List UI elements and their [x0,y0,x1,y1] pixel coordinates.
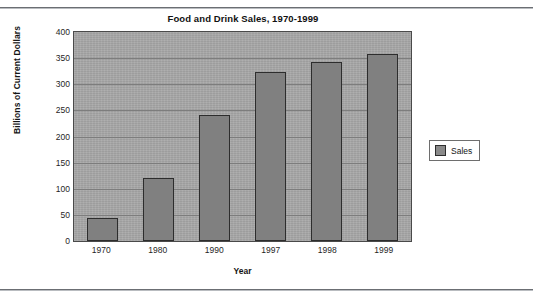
bar-chart: Food and Drink Sales, 1970-1999 Billions… [0,9,533,289]
bar[interactable] [143,178,174,241]
bar-group [74,32,411,241]
y-axis-tick-label: 250 [38,105,70,115]
y-axis-tick-label: 200 [38,132,70,142]
plot-area [73,31,412,242]
bar[interactable] [255,72,286,241]
bar-slot [243,32,299,241]
y-axis-tick-labels: 050100150200250300350400 [36,31,70,242]
x-axis-title: Year [73,266,412,276]
bar[interactable] [87,218,118,242]
legend-label: Sales [451,146,472,156]
x-axis-tick-label: 1999 [356,245,413,259]
y-axis-tick-label: 300 [38,79,70,89]
bar[interactable] [311,62,342,241]
bar[interactable] [367,54,398,241]
x-axis-tick-labels: 197019801990199719981999 [73,245,412,259]
x-axis-tick-label: 1998 [299,245,356,259]
bar-slot [299,32,355,241]
bar[interactable] [199,115,230,241]
bar-slot [74,32,130,241]
y-axis-tick-label: 50 [38,210,70,220]
chart-legend: Sales [429,140,480,161]
legend-swatch-icon [435,145,446,156]
y-axis-title: Billions of Current Dollars [12,0,22,160]
bar-slot [130,32,186,241]
x-axis-tick-label: 1997 [243,245,300,259]
y-axis-tick-label: 100 [38,184,70,194]
chart-title: Food and Drink Sales, 1970-1999 [73,13,413,24]
bar-slot [186,32,242,241]
x-axis-tick-label: 1990 [186,245,243,259]
bar-slot [355,32,411,241]
y-axis-tick-label: 400 [38,27,70,37]
x-axis-tick-label: 1970 [73,245,130,259]
y-axis-tick-label: 150 [38,158,70,168]
page-rule-bottom [0,289,533,290]
page-rule-top [0,7,533,8]
y-axis-tick-label: 350 [38,53,70,63]
x-axis-tick-label: 1980 [130,245,187,259]
y-axis-tick-label: 0 [38,236,70,246]
